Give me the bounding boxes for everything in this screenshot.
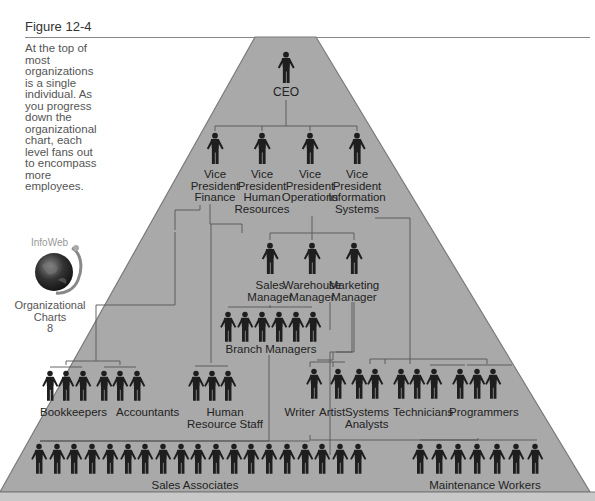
hr-staff-label: Human Resource Staff: [180, 407, 270, 430]
ceo-label: CEO: [266, 87, 306, 99]
technician-icons: [393, 369, 442, 399]
bookkeeper-icons: [42, 371, 91, 401]
branch-managers-label: Branch Managers: [216, 344, 326, 356]
marketing-manager-label: Marketing Manager: [324, 280, 384, 303]
vp-information-systems-label: Vice President Information Systems: [327, 169, 387, 215]
pyramid-shape: [0, 37, 590, 492]
org-pyramid: [0, 0, 595, 501]
accountants-label: Accountants: [116, 407, 186, 419]
programmers-label: Programmers: [449, 407, 519, 419]
sales-associates-label: Sales Associates: [140, 480, 250, 492]
writer-label: Writer: [275, 407, 315, 419]
maintenance-workers-label: Maintenance Workers: [420, 480, 550, 492]
technicians-label: Technicians: [393, 407, 453, 419]
accountant-icons: [96, 371, 145, 401]
systems-analysts-label: Systems Analysts: [345, 407, 395, 430]
bookkeepers-label: Bookkeepers: [40, 407, 100, 419]
bottom-strip: [0, 492, 595, 501]
programmer-icons: [452, 369, 501, 399]
